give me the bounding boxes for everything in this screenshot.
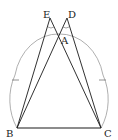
label-B: B (6, 128, 13, 139)
segment-BE (17, 18, 50, 128)
angle-mark-E (48, 27, 54, 28)
segment-BD (17, 18, 67, 128)
label-D: D (68, 9, 76, 20)
geometry-diagram: E D A B C (0, 0, 118, 140)
construction-arc (10, 34, 108, 128)
label-A: A (60, 35, 69, 46)
angle-mark-D (63, 27, 69, 28)
label-E: E (43, 9, 50, 20)
segment-CE (50, 18, 101, 128)
label-C: C (104, 128, 112, 139)
segment-CD (67, 18, 101, 128)
